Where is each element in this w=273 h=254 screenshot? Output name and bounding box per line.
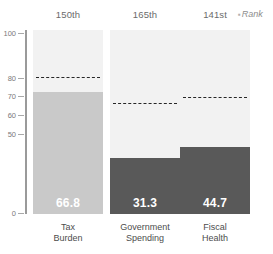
reference-line-tax-burden (36, 77, 100, 78)
reference-line-fiscal-health (183, 97, 247, 98)
y-tick-0 (18, 213, 24, 214)
reference-line-government-spending (113, 103, 177, 104)
x-label-tax-burden-line2: Burden (53, 233, 82, 243)
y-tick-label-70: 70 (0, 92, 16, 101)
x-label-fiscal-health: FiscalHealth (180, 222, 250, 244)
y-tick-label-50: 50 (0, 130, 16, 139)
x-label-government-spending-line2: Spending (126, 233, 164, 243)
y-tick-50 (18, 134, 24, 135)
plot-area: 66.8 31.3 44.7 100 80 70 60 50 0 TaxBurd… (0, 0, 273, 254)
x-label-tax-burden: TaxBurden (33, 222, 103, 244)
y-tick-100 (18, 33, 24, 34)
y-tick-80 (18, 78, 24, 79)
y-tick-label-100: 100 (0, 29, 16, 38)
y-axis-line (25, 30, 27, 214)
x-label-fiscal-health-line2: Health (202, 233, 228, 243)
x-label-fiscal-health-line1: Fiscal (203, 222, 227, 232)
y-tick-label-80: 80 (0, 74, 16, 83)
rank-bar-chart: 150th 165th 141st ▪Rank 66.8 31.3 44.7 1… (0, 0, 273, 254)
x-label-government-spending: GovernmentSpending (110, 222, 180, 244)
value-label-government-spending: 31.3 (110, 196, 180, 210)
y-tick-label-60: 60 (0, 111, 16, 120)
y-tick-label-0: 0 (0, 209, 16, 218)
x-label-government-spending-line1: Government (120, 222, 170, 232)
x-label-tax-burden-line1: Tax (61, 222, 75, 232)
value-label-tax-burden: 66.8 (33, 196, 103, 210)
y-tick-60 (18, 115, 24, 116)
value-label-fiscal-health: 44.7 (180, 196, 250, 210)
y-tick-70 (18, 96, 24, 97)
